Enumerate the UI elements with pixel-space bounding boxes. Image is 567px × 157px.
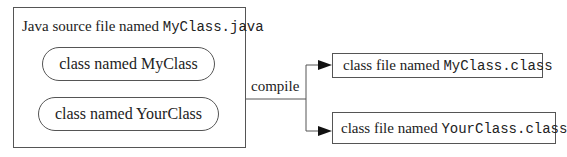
arrow-head-icon [318,126,332,136]
output-file-box-yourclass: class file named YourClass.class [332,112,556,144]
class-node-yourclass: class named YourClass [38,97,219,131]
compile-diagram: Java source file named MyClass.java clas… [0,0,567,157]
source-file-title: Java source file named MyClass.java [22,18,264,35]
source-file-box: Java source file named MyClass.java clas… [13,7,246,148]
output-file-box-myclass: class file named MyClass.class [332,53,543,78]
class-node-myclass: class named MyClass [42,47,215,81]
arrow-head-icon [318,60,332,70]
compile-label: compile [251,78,299,95]
